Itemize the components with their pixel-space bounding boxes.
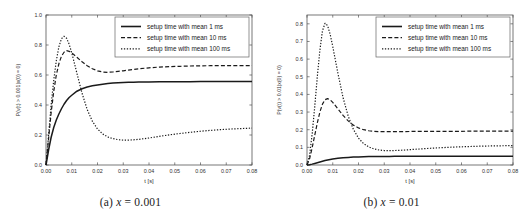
svg-text:0.04: 0.04 xyxy=(144,168,155,174)
svg-text:0.3: 0.3 xyxy=(296,109,304,115)
svg-text:0.05: 0.05 xyxy=(431,168,442,174)
caption-a-eq: = 0.001 xyxy=(125,196,162,208)
legend-label: setup time with mean 10 ms xyxy=(408,34,488,42)
caption-a: (a) x = 0.001 xyxy=(0,196,261,208)
svg-text:P(v(t) > 0.001|x(0) = 0): P(v(t) > 0.001|x(0) = 0) xyxy=(15,64,21,117)
svg-text:0.5: 0.5 xyxy=(296,74,304,80)
svg-text:0.03: 0.03 xyxy=(379,168,390,174)
plot-area-b: 0.000.010.020.030.040.050.060.070.080.00… xyxy=(261,0,522,196)
svg-text:P(v(t) > 0.01|x(0) = 0): P(v(t) > 0.01|x(0) = 0) xyxy=(276,65,282,115)
svg-text:0.00: 0.00 xyxy=(302,168,313,174)
plot-area-a: 0.000.010.020.030.040.050.060.070.080.00… xyxy=(0,0,261,196)
svg-text:0.06: 0.06 xyxy=(456,168,467,174)
svg-text:1.0: 1.0 xyxy=(35,12,43,18)
svg-text:0.08: 0.08 xyxy=(247,168,258,174)
caption-b: (b) x = 0.01 xyxy=(261,196,522,208)
caption-b-eq: = 0.01 xyxy=(389,196,420,208)
svg-text:0.6: 0.6 xyxy=(296,56,304,62)
svg-text:t [s]: t [s] xyxy=(144,178,154,184)
svg-text:0.7: 0.7 xyxy=(296,38,304,44)
svg-text:t [s]: t [s] xyxy=(405,178,415,184)
series-line xyxy=(46,51,252,165)
panel-b: 0.000.010.020.030.040.050.060.070.080.00… xyxy=(261,0,522,224)
svg-text:0.02: 0.02 xyxy=(92,168,103,174)
legend: setup time with mean 1 mssetup time with… xyxy=(376,17,510,57)
svg-text:0.04: 0.04 xyxy=(405,168,416,174)
figure-container: 0.000.010.020.030.040.050.060.070.080.00… xyxy=(0,0,523,224)
svg-text:0.2: 0.2 xyxy=(296,127,304,133)
legend: setup time with mean 1 mssetup time with… xyxy=(115,17,249,57)
caption-b-tag: (b) xyxy=(363,196,377,208)
panel-a: 0.000.010.020.030.040.050.060.070.080.00… xyxy=(0,0,261,224)
svg-text:0.02: 0.02 xyxy=(353,168,364,174)
svg-text:0.6: 0.6 xyxy=(35,72,43,78)
svg-text:0.8: 0.8 xyxy=(35,42,43,48)
svg-text:0.4: 0.4 xyxy=(296,91,304,97)
legend-label: setup time with mean 1 ms xyxy=(408,23,484,31)
svg-text:0.2: 0.2 xyxy=(35,132,43,138)
chart-a: 0.000.010.020.030.040.050.060.070.080.00… xyxy=(0,0,261,196)
legend-label: setup time with mean 10 ms xyxy=(147,34,227,42)
svg-text:0.01: 0.01 xyxy=(328,168,339,174)
svg-text:0.06: 0.06 xyxy=(195,168,206,174)
svg-text:0.05: 0.05 xyxy=(170,168,181,174)
svg-text:0.1: 0.1 xyxy=(296,144,304,150)
legend-label: setup time with mean 100 ms xyxy=(408,45,491,53)
svg-text:0.4: 0.4 xyxy=(35,102,43,108)
svg-text:0.8: 0.8 xyxy=(296,21,304,27)
svg-text:0.07: 0.07 xyxy=(221,168,232,174)
svg-text:0.0: 0.0 xyxy=(296,162,304,168)
svg-text:0.08: 0.08 xyxy=(508,168,519,174)
svg-text:0.01: 0.01 xyxy=(67,168,78,174)
series-line xyxy=(46,81,252,165)
caption-a-tag: (a) xyxy=(100,196,113,208)
svg-text:0.0: 0.0 xyxy=(35,162,43,168)
series-line xyxy=(307,99,513,165)
svg-text:0.00: 0.00 xyxy=(41,168,52,174)
legend-label: setup time with mean 100 ms xyxy=(147,45,230,53)
svg-text:0.07: 0.07 xyxy=(482,168,493,174)
caption-b-var: x xyxy=(381,196,386,208)
chart-b: 0.000.010.020.030.040.050.060.070.080.00… xyxy=(261,0,522,196)
legend-label: setup time with mean 1 ms xyxy=(147,23,223,31)
caption-a-var: x xyxy=(116,196,121,208)
svg-text:0.03: 0.03 xyxy=(118,168,129,174)
